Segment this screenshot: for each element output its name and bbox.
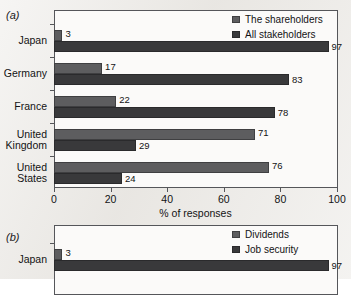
y-axis-tick xyxy=(50,123,54,124)
bar-value-label: 97 xyxy=(332,42,343,52)
legend: DividendsJob security xyxy=(232,229,298,259)
legend-item-job-security: Job security xyxy=(232,244,298,255)
legend-swatch-icon xyxy=(232,231,240,238)
bar-value-label: 3 xyxy=(65,29,70,39)
legend-label: Dividends xyxy=(245,229,289,240)
x-axis-tick-label: 100 xyxy=(328,193,346,205)
legend-swatch-icon xyxy=(232,246,240,253)
bar-value-label: 78 xyxy=(278,108,289,118)
x-axis-tick-label: 20 xyxy=(105,193,117,205)
panel-b: (b) Japan397DividendsJob security xyxy=(0,205,351,279)
bar-germany-the-shareholders xyxy=(54,63,102,74)
x-axis-tick xyxy=(54,188,55,192)
bar-france-the-shareholders xyxy=(54,96,116,107)
bar-france-all-stakeholders xyxy=(54,107,275,118)
category-label-france: France xyxy=(0,101,47,113)
bar-japan-dividends xyxy=(54,249,62,260)
panel-b-tag: (b) xyxy=(6,231,19,243)
category-label-germany: Germany xyxy=(0,68,47,80)
y-axis-tick xyxy=(50,24,54,25)
y-axis-tick xyxy=(50,90,54,91)
legend: The shareholdersAll stakeholders xyxy=(232,14,323,44)
bar-united-kingdom-all-stakeholders xyxy=(54,140,136,151)
legend-item-all-stakeholders: All stakeholders xyxy=(232,29,323,40)
bar-value-label: 76 xyxy=(272,161,283,171)
bar-value-label: 71 xyxy=(258,128,269,138)
legend-item-the-shareholders: The shareholders xyxy=(232,14,323,25)
x-axis-tick xyxy=(111,188,112,192)
category-label-united-states: United States xyxy=(0,162,47,185)
category-label-japan: Japan xyxy=(0,35,47,47)
y-axis-tick xyxy=(50,243,54,244)
panel-a: (a) Japan397Germany1783France2278United … xyxy=(0,0,351,205)
x-axis-tick-label: 80 xyxy=(275,193,287,205)
bar-value-label: 97 xyxy=(332,261,343,271)
legend-label: All stakeholders xyxy=(245,29,316,40)
x-axis-tick-label: 40 xyxy=(161,193,173,205)
x-axis-tick xyxy=(167,188,168,192)
x-axis-tick xyxy=(280,188,281,192)
category-label-japan: Japan xyxy=(0,254,47,266)
bar-japan-the-shareholders xyxy=(54,30,62,41)
bar-japan-job-security xyxy=(54,260,329,271)
y-axis-tick xyxy=(50,57,54,58)
bar-value-label: 83 xyxy=(292,75,303,85)
category-label-united-kingdom: United Kingdom xyxy=(0,129,47,152)
legend-item-dividends: Dividends xyxy=(232,229,298,240)
panel-a-tag: (a) xyxy=(6,9,19,21)
legend-label: Job security xyxy=(245,244,298,255)
bar-value-label: 24 xyxy=(125,174,136,184)
bar-united-states-all-stakeholders xyxy=(54,173,122,184)
x-axis-tick-label: 60 xyxy=(218,193,230,205)
bar-value-label: 3 xyxy=(65,248,70,258)
bar-germany-all-stakeholders xyxy=(54,74,289,85)
y-axis-tick xyxy=(50,156,54,157)
bar-value-label: 17 xyxy=(105,62,116,72)
bar-united-kingdom-the-shareholders xyxy=(54,129,255,140)
bar-value-label: 29 xyxy=(139,141,150,151)
legend-label: The shareholders xyxy=(245,14,323,25)
x-axis-tick-label: 0 xyxy=(51,193,57,205)
bar-united-states-the-shareholders xyxy=(54,162,269,173)
legend-swatch-icon xyxy=(232,16,240,23)
legend-swatch-icon xyxy=(232,31,240,38)
x-axis-tick xyxy=(224,188,225,192)
bar-value-label: 22 xyxy=(119,95,130,105)
x-axis-tick xyxy=(337,188,338,192)
